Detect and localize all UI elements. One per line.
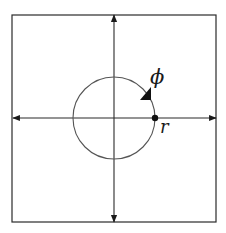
radius-point — [152, 115, 158, 121]
polar-diagram: ϕ r — [0, 0, 226, 233]
r-label: r — [160, 116, 170, 137]
phi-label: ϕ — [150, 65, 164, 89]
